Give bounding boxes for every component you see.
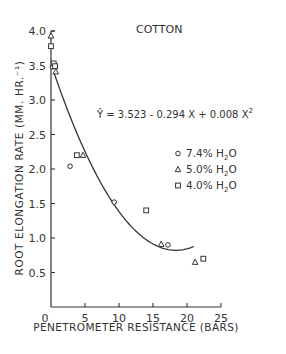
triangle-marker <box>158 241 164 246</box>
fit-curve <box>54 74 193 250</box>
equation-annotation: Ŷ = 3.523 - 0.294 X + 0.008 X2 <box>96 107 253 120</box>
y-axis-label: ROOT ELONGATION RATE (MM. HR.⁻¹) <box>13 61 25 276</box>
circle-marker <box>176 151 181 156</box>
square-marker <box>144 208 149 213</box>
square-marker <box>53 64 58 69</box>
legend-item-label: 4.0% H2O <box>186 179 237 194</box>
square-marker <box>49 44 54 49</box>
chart: COTTON 0.51.01.52.02.53.03.54.0 05101520… <box>0 0 286 354</box>
triangle-marker <box>80 152 86 157</box>
circle-marker <box>68 164 73 169</box>
y-tick-label: 2.0 <box>29 163 47 176</box>
legend-item-label: 7.4% H2O <box>186 147 237 162</box>
chart-title: COTTON <box>136 23 182 36</box>
y-tick-label: 2.5 <box>29 129 47 142</box>
square-marker <box>201 256 206 261</box>
circle-marker <box>112 200 117 205</box>
y-tick-label: 1.5 <box>29 198 47 211</box>
x-axis-label: PENETROMETER RESISTANCE (BARS) <box>33 321 239 333</box>
y-tick-label: 3.0 <box>29 94 47 107</box>
square-marker <box>176 183 181 188</box>
triangle-marker <box>48 33 54 38</box>
y-tick-label: 1.0 <box>29 232 47 245</box>
triangle-marker <box>192 259 198 264</box>
circle-marker <box>166 243 171 248</box>
equation-text: Ŷ = 3.523 - 0.294 X + 0.008 X2 <box>96 107 253 120</box>
y-tick-label: 3.5 <box>29 60 47 73</box>
data-points <box>48 33 206 265</box>
triangle-marker <box>175 167 181 172</box>
square-marker <box>74 153 79 158</box>
legend: 7.4% H2O5.0% H2O4.0% H2O <box>175 147 236 194</box>
y-tick-label: 4.0 <box>29 25 47 38</box>
triangle-marker <box>53 69 59 74</box>
legend-item-label: 5.0% H2O <box>186 163 237 178</box>
y-tick-label: 0.5 <box>29 267 47 280</box>
